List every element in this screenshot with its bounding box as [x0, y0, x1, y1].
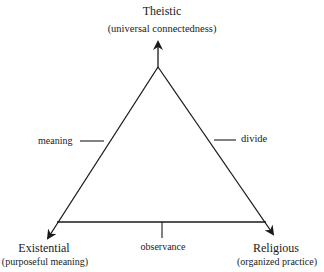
observance-label: observance	[141, 242, 186, 252]
theistic-subtitle: (universal connectedness)	[108, 24, 217, 35]
religious-title: Religious	[253, 242, 299, 254]
meaning-label: meaning	[38, 136, 72, 146]
existential-subtitle: (purposeful meaning)	[2, 257, 88, 267]
existential-title: Existential	[18, 242, 69, 254]
right-edge	[158, 67, 273, 234]
theistic-title: Theistic	[143, 5, 182, 17]
divide-label: divide	[241, 134, 267, 145]
religious-subtitle: (organized practice)	[237, 257, 317, 267]
left-edge	[48, 67, 158, 238]
